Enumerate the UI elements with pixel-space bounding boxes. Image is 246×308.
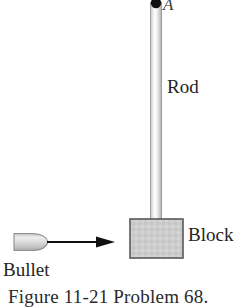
bullet-label: Bullet bbox=[3, 260, 49, 279]
block-shape bbox=[130, 219, 183, 258]
bullet-shape bbox=[14, 234, 48, 251]
pivot-label: A bbox=[163, 0, 173, 13]
block-label: Block bbox=[188, 225, 233, 244]
rod-label: Rod bbox=[167, 77, 199, 96]
rod-shape bbox=[150, 2, 162, 220]
figure-caption: Figure 11-21 Problem 68. bbox=[8, 286, 208, 308]
